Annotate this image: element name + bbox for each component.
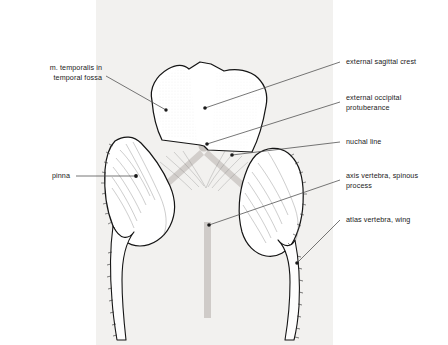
leader-dot-axis-spinous [207,223,211,227]
label-atlas-vertebra-wing: atlas vertebra, wing [346,215,446,225]
label-temporalis: m. temporalis in temporal fossa [6,63,102,82]
leader-dot-sagittal-crest [203,106,207,110]
leader-dot-temporalis [164,108,167,111]
pinna-right [239,148,303,256]
axis-spinous-process-rod [204,222,211,318]
figure-canvas: m. temporalis in temporal fossa pinna ex… [0,0,448,345]
label-pinna: pinna [6,171,70,181]
leader-dot-atlas-wing [295,261,299,265]
leader-dot-pinna [134,174,138,178]
label-axis-vertebra-spinous-process: axis vertebra, spinous process [346,171,446,190]
neck-right [278,240,299,340]
leader-dot-occipital-protuberance [205,142,209,146]
label-external-occipital-protuberance: external occipital protuberance [346,93,444,112]
label-nuchal-line: nuchal line [346,137,442,147]
leader-atlas-wing [297,220,340,263]
occipital-hatching [160,151,248,191]
label-external-sagittal-crest: external sagittal crest [346,57,446,67]
leader-dot-nuchal-line [230,153,234,157]
